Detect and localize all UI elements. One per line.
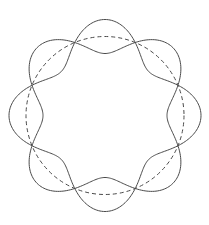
wavy-curve-a <box>9 20 201 212</box>
wavy-curve-b <box>29 40 181 192</box>
wave-circle-diagram <box>0 0 209 225</box>
dashed-reference-circle <box>26 37 184 195</box>
